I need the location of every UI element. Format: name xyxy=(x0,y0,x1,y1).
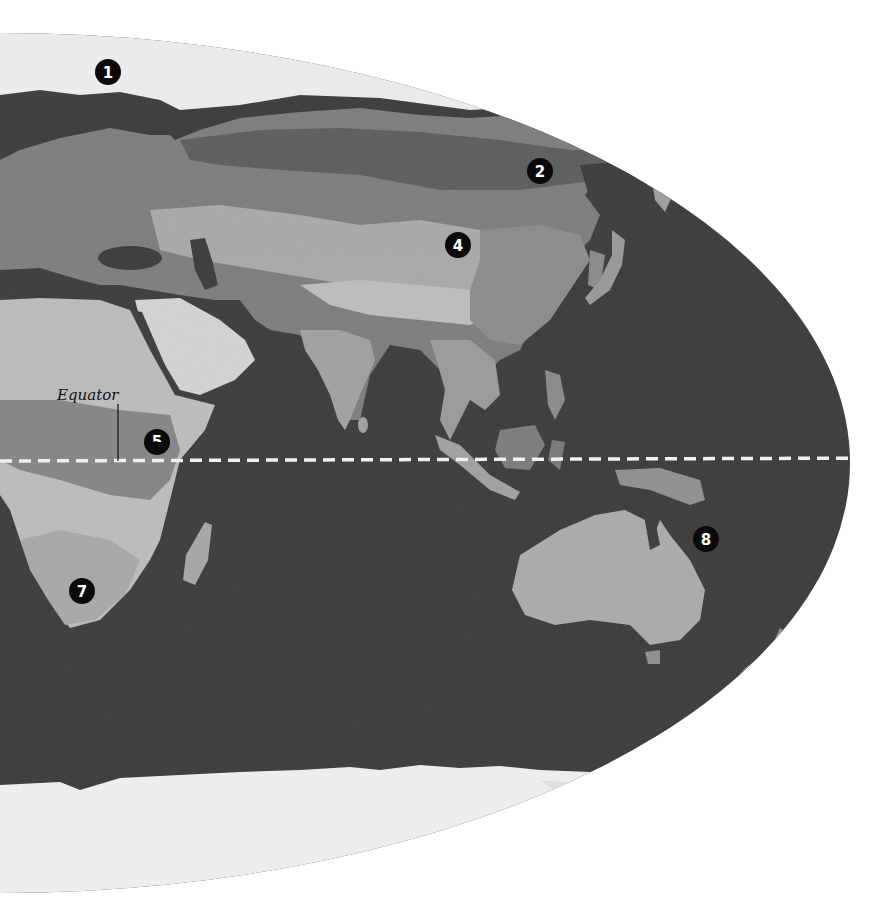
marker-number: 8 xyxy=(701,531,711,549)
marker-number: 4 xyxy=(453,237,463,255)
marker-8[interactable]: 8 xyxy=(693,526,719,552)
antarctica-shadow xyxy=(540,780,640,845)
marker-1[interactable]: 1 xyxy=(95,59,121,85)
globe-area xyxy=(0,0,893,918)
map-canvas: Equator 1 2 4 5 7 8 xyxy=(0,0,893,918)
marker-number: 1 xyxy=(103,64,113,82)
marker-2[interactable]: 2 xyxy=(527,158,553,184)
marker-5[interactable]: 5 xyxy=(144,429,170,455)
marker-4[interactable]: 4 xyxy=(445,232,471,258)
marker-7[interactable]: 7 xyxy=(69,578,95,604)
marker-number: 7 xyxy=(77,583,87,601)
world-map: Equator 1 2 4 5 7 8 xyxy=(0,0,893,918)
equator-label: Equator xyxy=(56,386,119,404)
marker-number: 2 xyxy=(535,163,545,181)
